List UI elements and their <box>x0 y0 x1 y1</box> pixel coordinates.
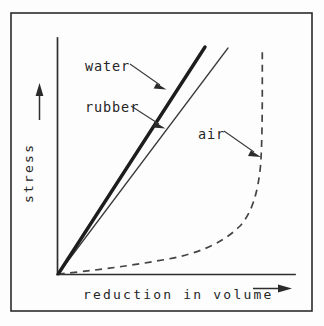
series-label-air: air <box>198 126 225 142</box>
series-curve-rubber <box>59 48 229 274</box>
series-curve-water <box>59 47 206 274</box>
x-axis-title: reduction in volume <box>83 287 274 302</box>
arrow-up-icon <box>36 83 44 120</box>
y-axis-title: stress <box>21 143 36 203</box>
series-curve-air <box>58 48 262 274</box>
leader-air <box>224 131 261 157</box>
series-label-rubber: rubber <box>85 99 139 115</box>
figure-frame <box>11 13 312 311</box>
stress-volume-chart: water rubber air reduction in volume str… <box>0 0 324 326</box>
leader-water <box>130 64 167 90</box>
series-label-water: water <box>85 58 130 74</box>
figure-container: water rubber air reduction in volume str… <box>0 0 324 326</box>
